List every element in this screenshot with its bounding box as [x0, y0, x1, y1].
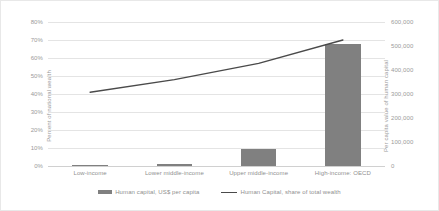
y-axis-left-tick-label: 0% [34, 163, 43, 169]
legend-bar-swatch-icon [98, 190, 112, 194]
x-axis-tick-label: Upper middle-income [229, 170, 288, 176]
line-series [48, 22, 385, 166]
x-axis-line [48, 166, 385, 167]
y-axis-left-tick-label: 50% [31, 73, 43, 79]
y-axis-left-tick-label: 10% [31, 145, 43, 151]
chart-legend: Human capital, US$ per capita Human Capi… [1, 189, 438, 195]
y-axis-left-tick-label: 30% [31, 109, 43, 115]
y-axis-left-tick-label: 70% [31, 37, 43, 43]
chart-container: Percent of national wealth Per capita va… [0, 0, 439, 211]
x-axis-tick-label: Low-income [73, 170, 106, 176]
x-axis-tick-label: Lower middle-income [145, 170, 204, 176]
y-axis-right-tick-label: 200,000 [391, 115, 413, 121]
y-axis-right-tick-label: 400,000 [391, 67, 413, 73]
y-axis-left-tick-label: 40% [31, 91, 43, 97]
y-axis-right-tick-label: 100,000 [391, 139, 413, 145]
plot-area: 0%10%20%30%40%50%60%70%80% 0100,000200,0… [48, 22, 385, 166]
legend-label-bar: Human capital, US$ per capita [115, 189, 199, 195]
legend-label-line: Human Capital, share of total wealth [240, 189, 340, 195]
legend-item-line[interactable]: Human Capital, share of total wealth [221, 189, 340, 195]
y-axis-right-tick-label: 500,000 [391, 43, 413, 49]
y-axis-right-tick-label: 300,000 [391, 91, 413, 97]
x-axis-tick-label: High-income: OECD [315, 170, 371, 176]
y-axis-left-tick-label: 80% [31, 19, 43, 25]
legend-line-swatch-icon [221, 192, 237, 193]
y-axis-right-tick-label: 600,000 [391, 19, 413, 25]
y-axis-left-tick-label: 60% [31, 55, 43, 61]
y-axis-left-tick-label: 20% [31, 127, 43, 133]
y-axis-right-tick-label: 0 [391, 163, 394, 169]
legend-item-bar[interactable]: Human capital, US$ per capita [98, 189, 199, 195]
